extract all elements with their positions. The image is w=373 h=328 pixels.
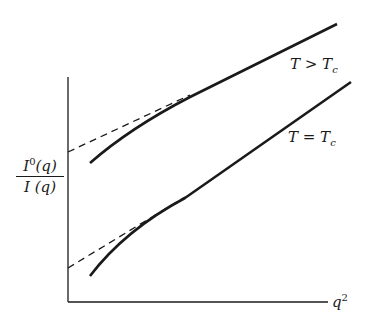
y-label-numerator: I0(q) [16,156,64,177]
lower-curve-label: T = Tc [288,128,336,148]
upper-curve-label: T > Tc [290,55,338,75]
lower-curve [90,82,351,276]
y-axis-label: I0(q) I (q) [16,156,64,196]
diagram: T > Tc T = Tc q2 I0(q) I (q) [0,0,373,328]
x-axis-label: q2 [332,292,348,311]
y-label-denominator: I (q) [16,177,64,196]
upper-extrapolation [68,95,190,152]
